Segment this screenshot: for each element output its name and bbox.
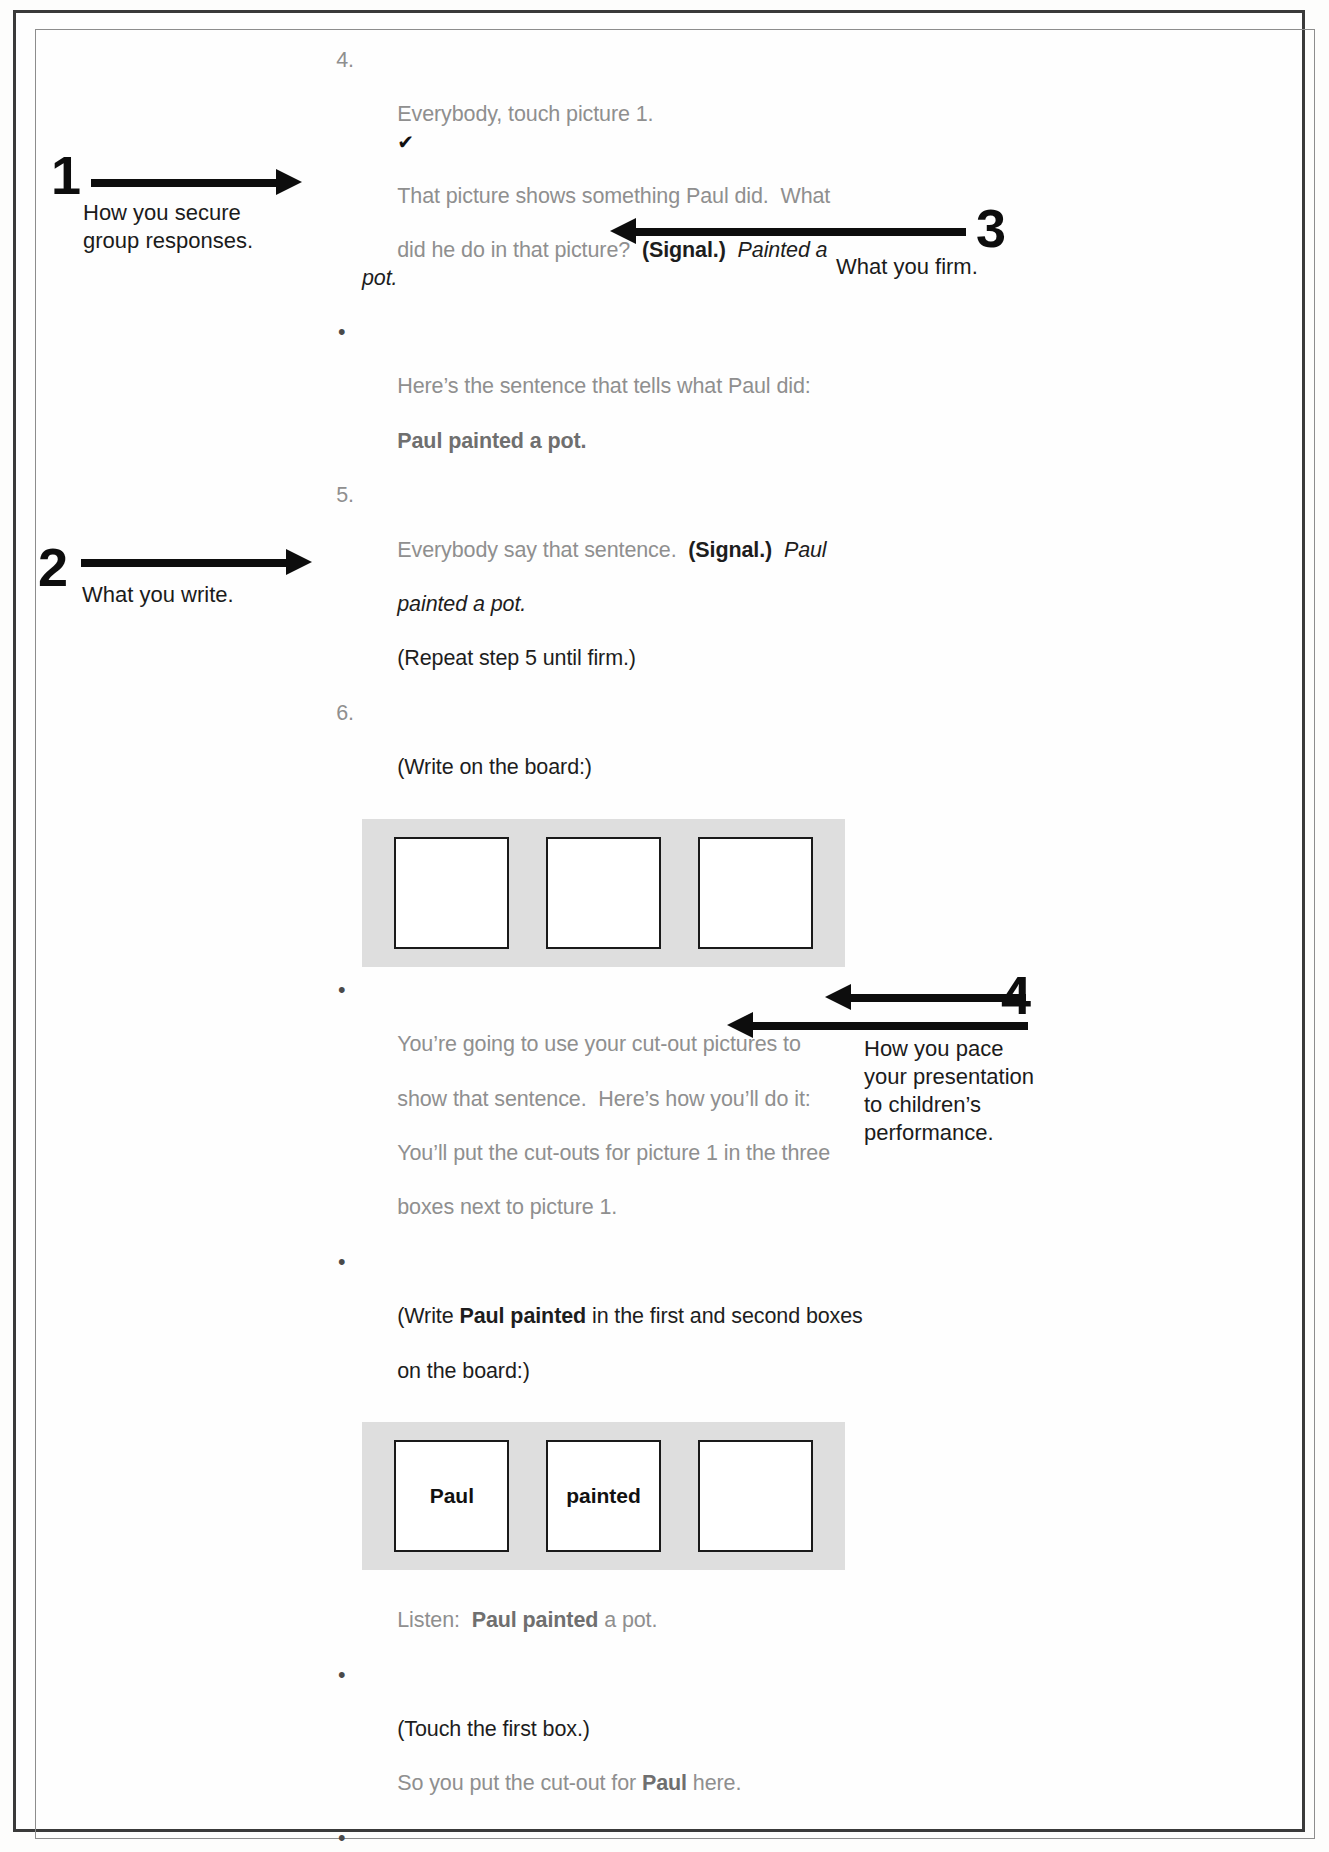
script-bullet-5: • (Touch the second box.) Then you put t… (326, 1825, 866, 1852)
step-number: 4. (326, 47, 354, 74)
board-diagram-partial: Paul painted (362, 1422, 845, 1570)
annotation-arrow-1 (91, 176, 301, 189)
caption-line: your presentation (864, 1064, 1034, 1089)
step-number: 6. (326, 700, 354, 727)
caption-line: group responses. (83, 228, 253, 253)
caption-line: How you pace (864, 1036, 1003, 1061)
signal-cue: (Signal.) (688, 538, 772, 562)
bullet-2-line-4: boxes next to picture 1. (397, 1195, 617, 1219)
board-cell (698, 1440, 813, 1552)
check-icon: ✔ (397, 131, 414, 153)
board-cell: painted (546, 1440, 661, 1552)
bullet-3-line-1c: in the first and second boxes (586, 1304, 863, 1328)
annotation-caption-2: What you write. (82, 581, 312, 609)
step-number: 5. (326, 482, 354, 509)
bullet-2-line-2: show that sentence. Here’s how you’ll do… (397, 1087, 810, 1111)
listen-tail: a pot. (598, 1608, 657, 1632)
annotation-arrow-4a (826, 991, 1026, 1004)
bullet-2-line-3: You’ll put the cut-outs for picture 1 in… (397, 1141, 830, 1165)
bullet-icon: • (338, 319, 354, 346)
annotation-caption-1: How you secure group responses. (83, 199, 313, 255)
script-bullet-2: • You’re going to use your cut-out pictu… (326, 977, 866, 1249)
script-bullet-3: • (Write Paul painted in the first and s… (326, 1249, 866, 1412)
step-4-line-3a: did he do in that picture? (397, 238, 642, 262)
board-cell (394, 837, 509, 949)
page-border: 4. Everybody, touch picture 1. ✔ That pi… (13, 10, 1305, 1832)
caption-line: What you firm. (836, 254, 978, 279)
annotation-arrow-3 (611, 225, 966, 238)
annotation-caption-4: How you pace your presentation to childr… (864, 1035, 1094, 1147)
repeat-instruction: (Repeat step 5 until firm.) (397, 646, 636, 670)
annotation-caption-3: What you firm. (836, 253, 1096, 281)
script-listen-line: Listen: Paul painted a pot. (326, 1580, 866, 1662)
child-response-cont: painted a pot. (397, 592, 526, 616)
caption-line: to children’s (864, 1092, 981, 1117)
child-response: Paul (772, 538, 826, 562)
bullet-icon: • (338, 1662, 354, 1689)
words-to-write: Paul painted (459, 1304, 586, 1328)
board-cell: Paul (394, 1440, 509, 1552)
bullet-1-line-2: Paul painted a pot. (397, 429, 586, 453)
annotation-number-3: 3 (976, 201, 1006, 255)
board-cell (546, 837, 661, 949)
listen-label: Listen: (397, 1608, 471, 1632)
bullet-icon: • (338, 1249, 354, 1276)
bullet-3-line-2: on the board:) (397, 1359, 529, 1383)
lesson-script-column: 4. Everybody, touch picture 1. ✔ That pi… (326, 47, 866, 1852)
caption-line: What you write. (82, 582, 234, 607)
bullet-4-line-2c: here. (687, 1771, 741, 1795)
bullet-4-line-1: (Touch the first box.) (397, 1717, 590, 1741)
annotation-number-2: 2 (38, 540, 68, 594)
script-step-6: 6. (Write on the board:) (326, 700, 866, 809)
step-4-line-2: That picture shows something Paul did. W… (397, 184, 830, 208)
step-6-line-1: (Write on the board:) (397, 755, 592, 779)
bullet-icon: • (338, 977, 354, 1004)
signal-cue: (Signal.) (642, 238, 726, 262)
board-cell (698, 837, 813, 949)
script-step-4: 4. Everybody, touch picture 1. ✔ That pi… (326, 47, 866, 319)
word-paul: Paul (642, 1771, 687, 1795)
annotation-number-1: 1 (51, 148, 81, 202)
caption-line: How you secure (83, 200, 241, 225)
script-step-5: 5. Everybody say that sentence. (Signal.… (326, 482, 866, 700)
bullet-3-line-1a: (Write (397, 1304, 459, 1328)
bullet-4-line-2a: So you put the cut-out for (397, 1771, 642, 1795)
bullet-icon: • (338, 1825, 354, 1852)
board-diagram-empty (362, 819, 845, 967)
annotation-arrow-2 (81, 556, 311, 569)
script-bullet-1: • Here’s the sentence that tells what Pa… (326, 319, 866, 482)
listen-emphasis: Paul painted (472, 1608, 599, 1632)
step-5-line-1a: Everybody say that sentence. (397, 538, 688, 562)
caption-line: performance. (864, 1120, 994, 1145)
script-bullet-4: • (Touch the first box.) So you put the … (326, 1662, 866, 1825)
annotation-arrow-4b (728, 1019, 1028, 1032)
step-4-line-1: Everybody, touch picture 1. (397, 102, 653, 126)
bullet-1-line-1: Here’s the sentence that tells what Paul… (397, 374, 810, 398)
